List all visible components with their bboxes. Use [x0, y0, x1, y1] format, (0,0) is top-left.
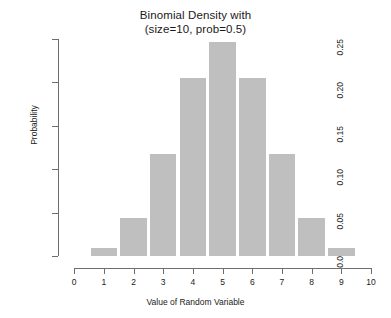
x-axis-tick-label: 8	[302, 277, 322, 287]
bar	[269, 154, 296, 256]
x-axis-tick	[282, 268, 283, 274]
x-axis-title: Value of Random Variable	[0, 297, 391, 307]
x-axis-tick	[74, 268, 75, 274]
x-axis-tick	[134, 268, 135, 274]
x-axis-tick-label: 4	[183, 277, 203, 287]
x-axis-tick	[193, 268, 194, 274]
x-axis-tick-label: 2	[124, 277, 144, 287]
y-axis-title: Probability	[29, 105, 39, 145]
x-axis-tick-label: 3	[153, 277, 173, 287]
bar	[209, 42, 236, 256]
x-axis-tick-label: 5	[213, 277, 233, 287]
bar	[91, 248, 118, 257]
binomial-density-chart: Binomial Density with (size=10, prob=0.5…	[0, 0, 391, 318]
bar	[120, 218, 147, 256]
x-axis-tick-label: 10	[361, 277, 381, 287]
bar	[239, 78, 266, 256]
bar	[328, 248, 355, 257]
x-axis-tick	[341, 268, 342, 274]
x-axis-tick-label: 1	[94, 277, 114, 287]
bar	[180, 78, 207, 256]
y-axis-tick	[52, 82, 58, 83]
y-axis-tick	[52, 39, 58, 40]
x-axis-tick	[371, 268, 372, 274]
x-axis-tick-label: 6	[242, 277, 262, 287]
x-axis-tick	[223, 268, 224, 274]
x-axis-tick	[252, 268, 253, 274]
bar	[298, 218, 325, 256]
x-axis-tick-label: 0	[64, 277, 84, 287]
x-axis-tick-label: 9	[331, 277, 351, 287]
y-axis-tick	[52, 169, 58, 170]
x-axis-tick	[312, 268, 313, 274]
x-axis-tick	[163, 268, 164, 274]
y-axis-line	[58, 39, 59, 256]
x-axis-tick	[104, 268, 105, 274]
y-axis-tick	[52, 256, 58, 257]
y-axis-tick	[52, 126, 58, 127]
x-axis-tick-label: 7	[272, 277, 292, 287]
bar	[150, 154, 177, 256]
y-axis-tick	[52, 213, 58, 214]
